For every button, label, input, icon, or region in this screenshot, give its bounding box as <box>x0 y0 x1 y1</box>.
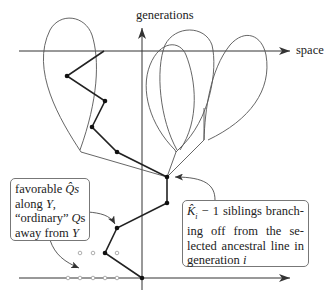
generations-axis-label: generations <box>136 8 194 22</box>
right-callout-arrow <box>175 177 215 200</box>
left-callout-line-1: favorable Q̂s <box>15 182 85 197</box>
left-callout-arrow-1 <box>88 212 115 224</box>
left-callout-box: favorable Q̂s along Y, “ordinary” Qs awa… <box>10 178 90 241</box>
right-callout-box: K̂i − 1 siblings branch- ing off from th… <box>182 200 309 267</box>
right-callout-line-1: K̂i − 1 siblings branch- <box>187 204 304 224</box>
space-axis-label: space <box>296 43 324 57</box>
left-callout-line-4: away from Y <box>15 226 85 241</box>
ancestor-dots <box>65 74 170 281</box>
right-callout-line-4: generation i <box>187 253 304 268</box>
right-loop-2 <box>160 30 214 150</box>
left-callout-line-3: “ordinary” Qs <box>15 211 85 226</box>
right-callout-line-3: lected ancestral line in <box>187 239 304 254</box>
left-family-loop <box>43 18 96 152</box>
ancestral-line <box>67 51 167 278</box>
right-loop-1 <box>146 45 194 150</box>
left-callout-line-2: along Y, <box>15 197 85 212</box>
left-callout-arrow-2 <box>50 240 79 268</box>
right-callout-line-2: ing off from the se- <box>187 224 304 239</box>
